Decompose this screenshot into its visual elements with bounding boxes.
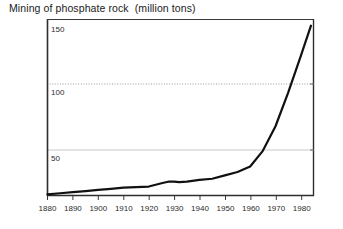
x-tick-label-1950: 1950	[217, 204, 235, 213]
line-chart-plot: 150 100 50 1880 1890 1900 1910 1920 1930…	[0, 0, 343, 229]
x-tick-marks	[48, 196, 302, 200]
x-axis-labels: 1880 1890 1900 1910 1920 1930 1940 1950 …	[39, 204, 312, 213]
x-tick-label-1910: 1910	[115, 204, 133, 213]
plot-background	[47, 19, 314, 196]
y-tick-label-50: 50	[51, 154, 60, 163]
y-tick-label-100: 100	[51, 88, 65, 97]
x-tick-label-1920: 1920	[140, 204, 158, 213]
y-tick-label-150: 150	[51, 25, 65, 34]
x-tick-label-1980: 1980	[293, 204, 311, 213]
x-tick-label-1940: 1940	[191, 204, 209, 213]
x-tick-label-1900: 1900	[89, 204, 107, 213]
x-tick-label-1960: 1960	[242, 204, 260, 213]
x-tick-label-1970: 1970	[267, 204, 285, 213]
x-tick-label-1880: 1880	[39, 204, 57, 213]
x-tick-label-1890: 1890	[64, 204, 82, 213]
chart-figure: Mining of phosphate rock (million tons)	[0, 0, 343, 229]
x-tick-label-1930: 1930	[166, 204, 184, 213]
